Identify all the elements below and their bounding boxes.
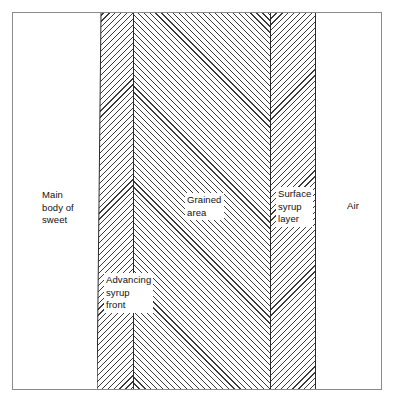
boundary-syrup-air xyxy=(315,13,316,389)
boundary-front-grained xyxy=(133,13,134,389)
boundary-grained-syrup xyxy=(270,13,271,389)
label-grained-area: Grained area xyxy=(185,193,224,220)
label-advancing-syrup-front: Advancing syrup front xyxy=(104,273,153,313)
label-main-body-of-sweet: Main body of sweet xyxy=(42,189,74,227)
label-air: Air xyxy=(347,200,359,213)
label-surface-syrup-layer: Surface syrup layer xyxy=(276,187,313,227)
zone-advancing-syrup-front xyxy=(97,13,133,389)
figure-frame: Main body of sweet Grained area Surface … xyxy=(12,12,382,390)
figure-canvas: Main body of sweet Grained area Surface … xyxy=(0,0,397,402)
